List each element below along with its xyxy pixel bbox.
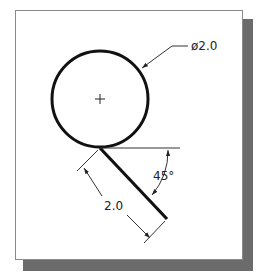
length-label: 2.0 (104, 199, 123, 213)
length-dimension (77, 150, 165, 243)
cad-drawing: ø2.0 45° 2.0 (0, 0, 261, 280)
angle-label: 45° (153, 169, 174, 183)
diameter-leader (142, 46, 188, 68)
center-mark-icon (95, 94, 105, 104)
diameter-label: ø2.0 (191, 39, 217, 53)
